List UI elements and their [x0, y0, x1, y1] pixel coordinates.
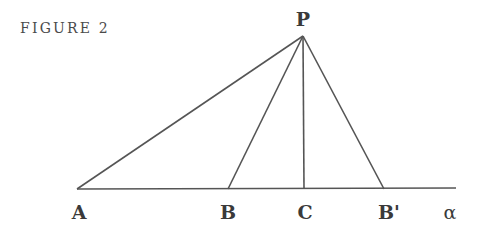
point-label-P: P: [296, 10, 310, 29]
line-alpha: [77, 188, 456, 189]
point-label-B: B: [220, 203, 236, 222]
point-label-C: C: [297, 203, 312, 222]
segment-PC: [303, 36, 304, 189]
point-label-A: A: [72, 203, 87, 222]
point-label-Bprime: B': [378, 203, 400, 222]
segment-PB: [228, 36, 303, 189]
line-label-alpha: α: [444, 203, 457, 222]
segment-PBprime: [303, 36, 384, 189]
segment-PA: [77, 36, 303, 189]
figure-2-diagram: FIGURE 2 P A B C B' α: [0, 0, 483, 232]
geometry-drawing: [0, 0, 483, 232]
